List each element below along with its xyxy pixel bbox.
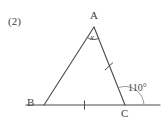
- geometry-figure: (2) A B C x 110°: [0, 0, 168, 128]
- angle-label-110-degrees: 110°: [128, 83, 147, 93]
- vertex-label-b: B: [27, 97, 34, 108]
- segment-AB: [44, 27, 94, 105]
- geometry-canvas: [0, 0, 168, 128]
- angle-label-x: x: [90, 33, 94, 42]
- problem-number-label: (2): [8, 16, 21, 27]
- vertex-label-c: C: [121, 108, 128, 119]
- vertex-label-a: A: [90, 10, 98, 21]
